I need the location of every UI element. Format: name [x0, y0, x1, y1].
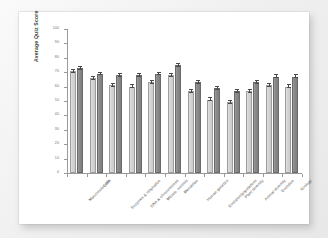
bar-group [187, 29, 205, 173]
bar [195, 82, 201, 173]
bar [227, 102, 233, 173]
error-bar-cap [196, 80, 200, 81]
bar [136, 75, 142, 173]
bar [175, 65, 181, 173]
bar-group [147, 29, 165, 173]
x-tick-mark [224, 174, 225, 177]
y-tick-label: 90 [19, 41, 59, 45]
error-bar-cap [137, 73, 141, 74]
error-bar-cap [176, 66, 180, 67]
error-bar-cap [189, 89, 193, 90]
bar [148, 82, 154, 173]
error-bar-cap [111, 86, 115, 87]
x-tick-mark [87, 174, 88, 177]
error-bar-cap [294, 77, 298, 78]
x-tick-mark [263, 174, 264, 177]
x-category-label: Human genetics [205, 178, 229, 202]
error-bar-cap [169, 76, 173, 77]
error-bar-cap [78, 66, 82, 67]
error-bar-cap [150, 80, 154, 81]
x-tick-mark [243, 174, 244, 177]
x-tick-mark [165, 174, 166, 177]
bar [292, 77, 298, 173]
bar [234, 91, 240, 173]
x-tick-mark [185, 174, 186, 177]
y-tick-label: 70 [19, 70, 59, 74]
bar [77, 68, 83, 173]
error-bar-cap [78, 69, 82, 70]
screenshot-root: Average Quiz Score 010203040506070809010… [0, 0, 328, 238]
bar [90, 78, 96, 173]
x-category-label-text: Cells [101, 178, 111, 188]
bar [168, 75, 174, 173]
y-tick-label: 80 [19, 56, 59, 60]
error-bar-cap [235, 92, 239, 93]
x-category-label: Evolution/populations [227, 178, 257, 208]
error-bar-cap [228, 100, 232, 101]
bar [266, 85, 272, 173]
x-category-label: Enzymes & respiration [130, 178, 162, 210]
error-bar-cap [118, 76, 122, 77]
x-tick-mark [67, 174, 68, 177]
x-category-label: Cells [101, 178, 111, 188]
error-bar-cap [157, 72, 161, 73]
y-tick-label: 0 [19, 171, 59, 175]
y-tick-label: 50 [19, 99, 59, 103]
error-bar-cap [294, 74, 298, 75]
error-bar-cap [157, 74, 161, 75]
error-bar-cap [215, 89, 219, 90]
error-bar-cap [235, 89, 239, 90]
bar-group [128, 29, 146, 173]
error-bar-cap [130, 84, 134, 85]
bars-layer [67, 29, 302, 173]
y-tick-label: 40 [19, 113, 59, 117]
y-tick-label: 100 [19, 27, 59, 31]
error-bar-cap [274, 77, 278, 78]
bar-group [265, 29, 283, 173]
x-tick-mark [126, 174, 127, 177]
x-category-label-text: Evolution/populations [227, 178, 257, 208]
bar [214, 88, 220, 173]
bar-group [167, 29, 185, 173]
error-bar-cap [248, 92, 252, 93]
bar [207, 100, 213, 173]
bar-group [284, 29, 302, 173]
bar-group [245, 29, 263, 173]
error-bar-cap [176, 63, 180, 64]
x-tick-mark [302, 174, 303, 177]
bar-group [226, 29, 244, 173]
bar [97, 74, 103, 173]
error-bar-cap [137, 76, 141, 77]
bar [155, 74, 161, 173]
x-tick-mark [204, 174, 205, 177]
x-category-label-text: Enzymes & respiration [130, 178, 162, 210]
error-bar-cap [215, 86, 219, 87]
x-tick-mark [106, 174, 107, 177]
bar [129, 87, 135, 173]
y-tick-label: 60 [19, 85, 59, 89]
error-bar-cap [189, 92, 193, 93]
error-bar-cap [98, 74, 102, 75]
error-bar-cap [274, 74, 278, 75]
error-bar-cap [196, 83, 200, 84]
bar [116, 75, 122, 173]
plot-area: Average Quiz Score 010203040506070809010… [19, 12, 309, 224]
error-bar-cap [169, 73, 173, 74]
error-bar-cap [228, 103, 232, 104]
bar [70, 71, 76, 173]
error-bar-cap [255, 83, 259, 84]
bar [285, 87, 291, 173]
error-bar-cap [91, 76, 95, 77]
error-bar-cap [208, 97, 212, 98]
chart-figure-card: Average Quiz Score 010203040506070809010… [19, 12, 309, 224]
y-tick-label: 20 [19, 142, 59, 146]
error-bar-cap [287, 84, 291, 85]
error-bar-cap [267, 83, 271, 84]
y-tick-label: 10 [19, 157, 59, 161]
error-bar-cap [91, 79, 95, 80]
bar-group [89, 29, 107, 173]
x-tick-mark [145, 174, 146, 177]
bar [109, 85, 115, 173]
error-bar-cap [267, 86, 271, 87]
x-category-label-text: Human genetics [205, 178, 229, 202]
